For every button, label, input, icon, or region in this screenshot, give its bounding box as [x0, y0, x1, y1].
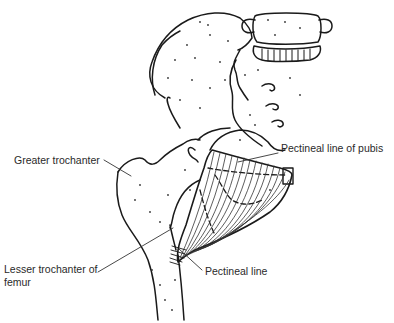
label-greater-trochanter: Greater trochanter [14, 154, 100, 166]
leader-lesser-trochanter [98, 228, 173, 272]
sacral-foramen-1 [262, 84, 275, 91]
sacrum-outline [230, 60, 262, 146]
vertebra-body [253, 13, 321, 44]
label-pectineal-line-of-pubis: Pectineal line of pubis [281, 142, 383, 154]
anatomy-diagram: Greater trochanter Pectineal line of pub… [0, 0, 394, 323]
greater-trochanter-outline [118, 139, 200, 172]
label-pectineal-line: Pectineal line [205, 265, 267, 277]
disc-ridges [262, 49, 310, 61]
femoral-head-neck [167, 97, 180, 128]
femur-shaft-left [117, 172, 158, 320]
sacral-foramen-2 [266, 104, 278, 110]
obturator-curve [170, 180, 200, 228]
muscle-fibres [180, 152, 289, 258]
iliac-crest-inner [152, 31, 180, 95]
acetabulum-rim [210, 130, 285, 151]
leader-pectineal-line-of-pubis [238, 153, 278, 162]
label-lesser-trochanter-line1: Lesser trochanter of [4, 263, 97, 275]
sacral-foramen-3 [272, 120, 283, 127]
femoral-neck-inner [188, 148, 198, 162]
label-lesser-trochanter-line2: femur [4, 276, 31, 288]
